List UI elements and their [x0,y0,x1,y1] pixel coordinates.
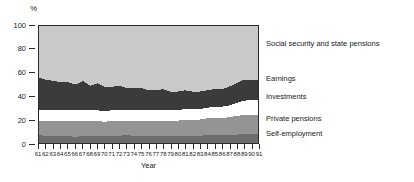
x-axis-tick-label: 77 [153,150,160,158]
x-axis-tick-label: 69 [94,150,101,158]
x-axis-tick-label: 91 [256,150,263,158]
x-axis-tick-label: 80 [175,150,182,158]
x-axis-tick-label: 85 [211,150,218,158]
x-axis-tick-label: 62 [42,150,49,158]
x-axis-tick-label: 67 [79,150,86,158]
x-axis-tick-label: 90 [248,150,255,158]
y-axis-tick-label: 100 [13,21,26,30]
x-axis-tick-mark [126,144,127,149]
plot-svg [39,26,258,143]
x-axis-tick-label: 72 [116,150,123,158]
x-axis-tick-mark [134,144,135,149]
x-axis-tick-label: 87 [226,150,233,158]
x-axis-tick-mark [38,144,39,149]
x-axis-tick-label: 74 [130,150,137,158]
x-axis-tick-mark [75,144,76,149]
x-axis-tick-mark [67,144,68,149]
x-axis-tick-label: 63 [49,150,56,158]
y-axis-tick-mark [29,72,35,73]
x-axis-tick-mark [90,144,91,149]
x-axis-tick-labels: 6162636465666768697071727374757677787980… [38,150,259,160]
x-axis-tick-mark [149,144,150,149]
x-axis-tick-mark [112,144,113,149]
x-axis-tick-mark [200,144,201,149]
x-axis-tick-label: 86 [219,150,226,158]
series-label: Investments [266,92,306,101]
x-axis-tick-mark [244,144,245,149]
x-axis-tick-label: 84 [204,150,211,158]
y-axis-tick-label: 40 [18,92,26,101]
x-axis-tick-mark [163,144,164,149]
stacked-area-chart: % 020406080100 6162636465666768697071727… [0,0,414,182]
x-axis-tick-label: 88 [234,150,241,158]
x-axis-tick-label: 73 [123,150,130,158]
x-axis-tick-mark [60,144,61,149]
x-axis-tick-mark [252,144,253,149]
y-axis-tick: 60 [0,68,38,77]
x-axis-tick-mark [207,144,208,149]
y-axis-tick-mark [29,96,35,97]
x-axis-tick-label: 82 [189,150,196,158]
y-axis-tick-mark [29,144,35,145]
x-axis-tick-label: 89 [241,150,248,158]
x-axis-tick-mark [230,144,231,149]
x-axis-tick-label: 71 [108,150,115,158]
y-axis-tick: 0 [0,140,38,149]
series-label: Self-employment [266,129,322,138]
x-axis-tick-mark [237,144,238,149]
x-axis-title: Year [38,161,259,170]
x-axis-tick-label: 76 [145,150,152,158]
x-axis-tick-mark [185,144,186,149]
x-axis-tick-label: 83 [197,150,204,158]
y-axis-tick-mark [29,48,35,49]
x-axis-tick-mark [97,144,98,149]
x-axis-tick-label: 68 [86,150,93,158]
y-axis-unit-label: % [30,4,37,14]
x-axis-tick-label: 64 [57,150,64,158]
x-axis-tick-label: 78 [160,150,167,158]
y-axis-tick-label: 80 [18,44,26,53]
x-axis-tick-label: 75 [138,150,145,158]
plot-area [38,25,259,144]
x-axis-tick-mark [222,144,223,149]
x-axis-tick-mark [259,144,260,149]
y-axis-tick-label: 0 [22,140,26,149]
x-axis-tick-mark [53,144,54,149]
x-axis-tick-mark [104,144,105,149]
y-axis-tick: 100 [0,21,38,30]
y-axis-tick-label: 20 [18,116,26,125]
x-axis-tick-mark [141,144,142,149]
x-axis-tick-mark [193,144,194,149]
x-axis-tick-label: 65 [64,150,71,158]
x-axis-tick-mark [45,144,46,149]
y-axis-tick: 40 [0,92,38,101]
x-axis-tick-mark [119,144,120,149]
x-axis-tick-label: 81 [182,150,189,158]
x-axis-tick-label: 66 [71,150,78,158]
area-band [39,26,258,92]
series-label: Social security and state pensions [266,39,379,48]
x-axis-tick-mark [156,144,157,149]
x-axis-tick-mark [171,144,172,149]
x-axis-tick-mark [178,144,179,149]
series-label: Private pensions [266,114,321,123]
x-axis-tick-mark [215,144,216,149]
y-axis-tick: 20 [0,116,38,125]
y-axis-tick-label: 60 [18,68,26,77]
x-axis-tick-label: 79 [167,150,174,158]
y-axis-tick-mark [29,120,35,121]
series-label: Earnings [266,74,296,83]
y-axis-tick: 80 [0,44,38,53]
y-axis-tick-mark [29,25,35,26]
x-axis-tick-mark [82,144,83,149]
x-axis-tick-label: 70 [101,150,108,158]
x-axis-tick-label: 61 [35,150,42,158]
